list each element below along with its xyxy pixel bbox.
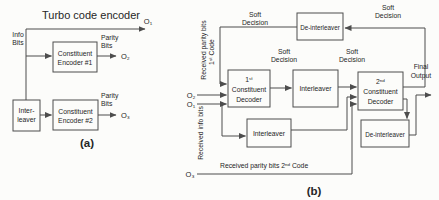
encoder-interleaver-label-line1: Inter- (19, 107, 35, 114)
lower-deinterleaver-label: De-interleaver (365, 131, 405, 138)
received-info-bits-label: Received info bits (197, 106, 204, 160)
soft-decision-mid-right-line1: Soft (346, 48, 358, 55)
o2-output-label: O₂ (121, 52, 130, 61)
received-parity-1st-label-line1: Received parity bits (200, 20, 208, 80)
decoder2-label-line3: Decoder (368, 98, 394, 105)
decoder1-label-line2: Constituent (232, 86, 266, 93)
parity-bits-bottom-label-line2: Bits (101, 100, 113, 107)
top-deinterleaver-label: De-interleaver (300, 24, 340, 31)
soft-decision-mid-right-line2: Decision (339, 56, 365, 63)
o1-to-lower-interleaver-line (222, 104, 246, 136)
panel-a-caption: (a) (80, 137, 94, 149)
panel-b-decoder: Received parity bits 1ˢᵗ Code Received i… (186, 4, 432, 198)
soft-decision-top-left-line1: Soft (249, 11, 261, 18)
decoder1-label-line3: Decoder (236, 96, 262, 103)
lower-interleaver-label: Interleaver (253, 130, 286, 137)
figure-canvas: Turbo code encoder O₁ Info Bits Constitu… (0, 0, 439, 200)
received-parity-2nd-label: Received parity bits 2ⁿᵈ Code (220, 162, 308, 170)
final-output-line (409, 95, 431, 135)
soft-decision-top-right-line1: Soft (382, 4, 394, 11)
info-bits-label-line2: Bits (12, 39, 24, 46)
final-output-label-line1: Final (414, 63, 429, 70)
soft-decision-mid-left-line1: Soft (278, 48, 290, 55)
parity-bits-top-label-line2: Bits (101, 42, 113, 49)
soft-decision-top-right-line2: Decision (375, 12, 401, 19)
o3-input-label: O₃ (186, 170, 195, 179)
decoder2-label-line2: Constituent (363, 88, 397, 95)
encoder-interleaver-label-line2: leaver (17, 116, 36, 123)
panel-b-caption: (b) (307, 185, 322, 197)
encoder1-label-line1: Constituent (58, 50, 92, 57)
mid-interleaver-label: Interleaver (299, 85, 332, 92)
encoder2-label-line1: Constituent (58, 108, 92, 115)
decoder2-label-line1: 2ⁿᵈ (376, 78, 385, 85)
constituent-encoder-2-box (53, 100, 98, 130)
encoder2-label-line2: Encoder #2 (58, 117, 93, 124)
o2-input-label: O₂ (187, 91, 196, 100)
soft-decision-mid-left-line2: Decision (271, 56, 297, 63)
encoder1-label-line2: Encoder #1 (58, 59, 93, 66)
panel-a-title: Turbo code encoder (42, 9, 140, 21)
final-output-label-line2: Output (411, 72, 432, 80)
decoder2-to-lower-deinterleaver-line (403, 99, 407, 119)
decoder1-label-line1: 1ˢᵗ (245, 76, 253, 83)
constituent-encoder-1-box (53, 42, 97, 72)
info-bits-label-line1: Info (12, 31, 24, 38)
turbo-code-figure: Turbo code encoder O₁ Info Bits Constitu… (0, 0, 439, 200)
panel-a-encoder: Turbo code encoder O₁ Info Bits Constitu… (12, 9, 152, 149)
o1-output-label: O₁ (144, 17, 153, 26)
received-parity-1st-label-line2: 1ˢᵗ Code (208, 39, 215, 65)
soft-decision-top-left-line2: Decision (242, 19, 268, 26)
o3-output-label: O₃ (121, 111, 130, 120)
o1-input-label: O₁ (187, 100, 196, 109)
